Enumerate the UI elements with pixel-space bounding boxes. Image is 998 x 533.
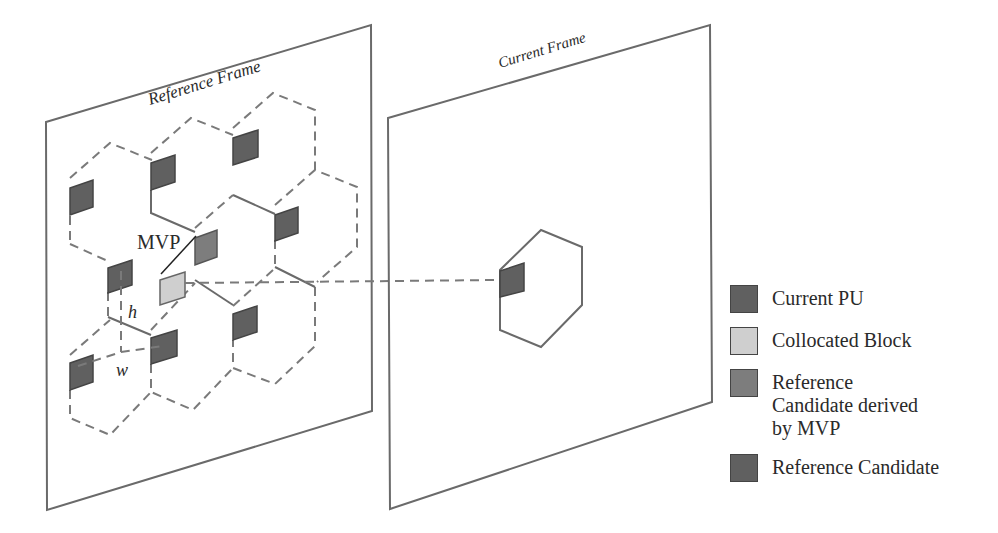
legend-item-collocated-block: Collocated Block: [730, 327, 990, 355]
legend-item-mvp-candidate: Reference Candidate derived by MVP: [730, 369, 990, 440]
mvp-reference-candidate-block: [195, 230, 217, 265]
legend-item-current-pu: Current PU: [730, 285, 990, 313]
mvp-candidate-swatch: [730, 369, 758, 397]
legend-item-reference-candidate: Reference Candidate: [730, 454, 990, 482]
hexagon-search-grid: [70, 93, 357, 435]
reference-candidate-block: [70, 180, 93, 215]
current-pu-block: [500, 263, 524, 297]
reference-candidate-swatch: [730, 454, 758, 482]
legend: Current PU Collocated Block Reference Ca…: [730, 285, 990, 496]
reference-candidate-block: [275, 207, 298, 241]
collocated-block: [160, 272, 185, 305]
reference-candidate-block: [233, 130, 258, 165]
legend-label: Collocated Block: [772, 327, 911, 352]
collocation-projection-line: [185, 280, 498, 283]
legend-label: Reference Candidate derived by MVP: [772, 369, 932, 440]
reference-frame-title: Reference Frame: [145, 56, 264, 109]
reference-candidate-block: [70, 355, 93, 390]
reference-frame-outline: [46, 25, 372, 510]
current-frame: Current Frame: [388, 25, 712, 509]
mvp-label: MVP: [137, 231, 180, 253]
width-label: w: [116, 360, 128, 380]
legend-label: Reference Candidate: [772, 454, 939, 479]
current-frame-outline: [388, 25, 712, 509]
reference-frame: Reference Frame: [46, 25, 372, 510]
reference-candidate-block: [233, 306, 257, 340]
current-pu-swatch: [730, 285, 758, 313]
reference-candidate-block: [151, 155, 175, 190]
height-label: h: [128, 302, 137, 322]
collocated-block-swatch: [730, 327, 758, 355]
legend-label: Current PU: [772, 285, 864, 310]
